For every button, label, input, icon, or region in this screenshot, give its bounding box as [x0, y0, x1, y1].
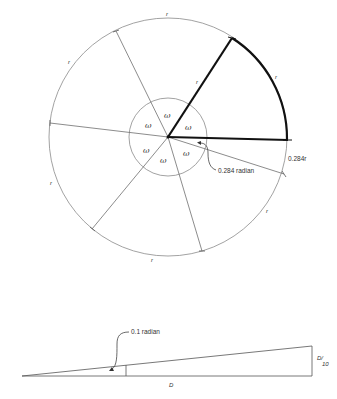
bold-radius-upper	[168, 38, 232, 137]
height-label-denominator: 10	[322, 361, 329, 367]
arc-label-bold-arc: r	[275, 74, 278, 80]
angle-leader-arrowhead	[197, 141, 201, 145]
radian-diagram: r r r r r r r ω ω ω ω ω ω 0.284 radian 0…	[0, 0, 337, 399]
omega-label-4: ω	[143, 146, 150, 155]
bold-arc-r	[232, 38, 287, 139]
radius-label: r	[196, 79, 199, 85]
spoke-upper-left	[116, 31, 168, 137]
triangle-hypotenuse	[22, 346, 312, 376]
arc-label-lower-right: r	[266, 208, 269, 214]
spoke-lower-left	[92, 137, 168, 229]
arc-label-top: r	[166, 11, 169, 17]
arc-label-upper-left: r	[68, 59, 71, 65]
omega-label-1: ω	[164, 111, 171, 120]
omega-label-3: ω	[185, 123, 192, 132]
small-angle-leader-arrow	[112, 332, 129, 369]
angle-label: 0.284 radian	[218, 167, 255, 174]
omega-label-6: ω	[183, 149, 190, 158]
remainder-label: 0.284r	[288, 155, 307, 162]
triangle-figure: 0.1 radian D D/ 10	[22, 328, 329, 388]
spoke-ticks	[50, 30, 286, 251]
omega-label-5: ω	[160, 156, 167, 165]
base-label: D	[169, 382, 174, 388]
center-point	[167, 136, 170, 139]
circle-figure: r r r r r r r ω ω ω ω ω ω 0.284 radian 0…	[49, 11, 307, 263]
bold-radius-horizontal	[168, 137, 288, 140]
small-angle-label: 0.1 radian	[131, 328, 160, 335]
omega-label-2: ω	[145, 121, 152, 130]
arc-label-left: r	[50, 180, 53, 186]
arc-label-bottom: r	[151, 257, 154, 263]
angle-leader-arrow	[200, 143, 216, 170]
